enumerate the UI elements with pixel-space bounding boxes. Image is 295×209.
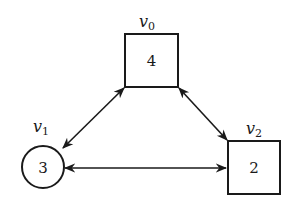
node-v2: 2 v2 xyxy=(228,119,280,194)
node-v1-label: v1 xyxy=(33,117,49,138)
edge-v0-v2 xyxy=(179,88,227,140)
node-v2-value: 2 xyxy=(249,159,259,177)
node-v1-value: 3 xyxy=(38,159,48,177)
node-v0: 4 v0 xyxy=(125,12,178,87)
node-v0-label: v0 xyxy=(139,12,155,33)
node-v1: 3 v1 xyxy=(22,117,64,188)
node-v0-value: 4 xyxy=(147,52,157,70)
graph-diagram: 4 v0 3 v1 2 v2 xyxy=(0,0,295,209)
node-v2-label: v2 xyxy=(246,119,262,140)
edge-v0-v1 xyxy=(63,88,124,148)
